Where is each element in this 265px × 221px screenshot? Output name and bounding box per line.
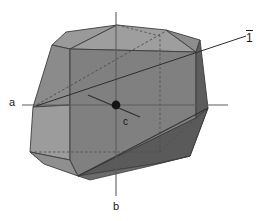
inversion-center-label: 1 <box>246 30 253 44</box>
crystal-diagram-figure: a b c 1 <box>0 0 265 221</box>
axis-label-b: b <box>113 201 119 212</box>
axis-label-a: a <box>9 97 15 108</box>
inversion-center-label-text: 1 <box>246 30 253 44</box>
center-of-symmetry-dot <box>112 101 121 110</box>
face-left-upper-bevel <box>33 45 70 107</box>
axis-label-c: c <box>123 117 128 127</box>
crystal-polyhedron-svg <box>0 0 265 221</box>
